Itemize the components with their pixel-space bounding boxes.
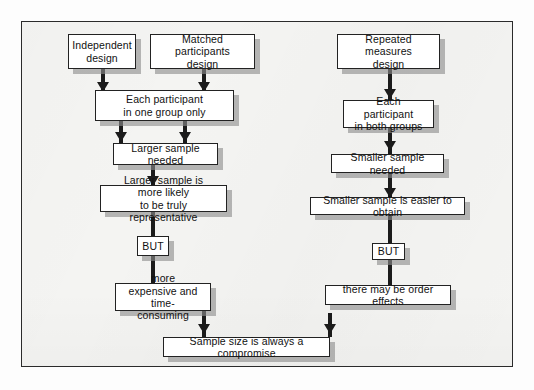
node-matched-design-label: Matched participants design xyxy=(151,33,254,70)
connector-easier-to-but xyxy=(388,215,392,243)
diagram-frame: Independent design Matched participants … xyxy=(21,21,513,367)
node-each-participant-one-group-label: Each participant in one group only xyxy=(113,93,215,118)
connector-but-to-order-effects xyxy=(388,260,392,285)
node-repeated-design[interactable]: Repeated measures design xyxy=(337,34,440,69)
node-order-effects[interactable]: there may be order effects xyxy=(325,285,451,305)
node-more-expensive-line2: time-consuming xyxy=(121,297,205,322)
node-matched-design-line2: design xyxy=(156,58,249,70)
node-each-both-groups-line2: in both groups xyxy=(349,120,428,132)
node-compromise[interactable]: Sample size is always a compromise xyxy=(163,337,330,357)
node-but-left[interactable]: BUT xyxy=(137,236,169,256)
node-matched-design-line1: Matched participants xyxy=(156,33,249,58)
node-larger-sample-needed-label: Larger sample needed xyxy=(114,142,217,167)
node-but-right[interactable]: BUT xyxy=(372,243,405,260)
node-each-one-group-line2: in one group only xyxy=(118,106,210,118)
node-larger-representative[interactable]: Larger sample is more likely to be truly… xyxy=(100,185,227,212)
node-smaller-easier[interactable]: Smaller sample is easier to obtain xyxy=(310,197,465,215)
node-smaller-sample-needed[interactable]: Smaller sample needed xyxy=(331,154,444,173)
node-each-both-groups-line1: Each participant xyxy=(349,95,428,120)
node-repeated-design-label: Repeated measures design xyxy=(338,33,439,70)
node-repeated-design-line1: Repeated measures xyxy=(343,33,434,58)
arrowhead-each-left-down xyxy=(115,132,127,142)
node-independent-design-line1: Independent xyxy=(67,39,137,51)
node-each-one-group-line1: Each participant xyxy=(118,93,210,105)
arrowhead-order-effects-to-compromise xyxy=(324,324,336,334)
node-larger-representative-line2: to be truly representative xyxy=(106,199,221,224)
node-each-participant-both-groups[interactable]: Each participant in both groups xyxy=(343,100,434,128)
node-compromise-label: Sample size is always a compromise xyxy=(164,335,329,360)
node-larger-representative-line1: Larger sample is more likely xyxy=(106,174,221,199)
node-larger-sample-needed[interactable]: Larger sample needed xyxy=(113,143,218,165)
node-smaller-easier-label: Smaller sample is easier to obtain xyxy=(311,194,464,219)
node-but-left-label: BUT xyxy=(137,240,168,252)
diagram-canvas: Independent design Matched participants … xyxy=(0,0,534,390)
arrowhead-expensive-to-compromise xyxy=(198,324,210,334)
node-but-right-label: BUT xyxy=(373,245,404,257)
node-each-participant-both-groups-label: Each participant in both groups xyxy=(344,95,433,132)
node-independent-design-line2: design xyxy=(67,52,137,64)
node-order-effects-label: there may be order effects xyxy=(326,283,450,308)
node-larger-representative-label: Larger sample is more likely to be truly… xyxy=(101,174,226,224)
node-repeated-design-line2: design xyxy=(343,58,434,70)
arrowhead-each-both-to-smaller xyxy=(384,141,396,151)
node-smaller-sample-needed-label: Smaller sample needed xyxy=(332,151,443,176)
node-each-participant-one-group[interactable]: Each participant in one group only xyxy=(95,90,234,121)
node-independent-design[interactable]: Independent design xyxy=(68,34,136,69)
node-more-expensive-line1: more expensive and xyxy=(121,272,205,297)
node-independent-design-label: Independent design xyxy=(62,39,142,64)
node-more-expensive-label: more expensive and time-consuming xyxy=(116,272,210,322)
node-more-expensive[interactable]: more expensive and time-consuming xyxy=(115,283,211,311)
arrowhead-each-right-down xyxy=(179,132,191,142)
node-matched-design[interactable]: Matched participants design xyxy=(150,34,255,69)
